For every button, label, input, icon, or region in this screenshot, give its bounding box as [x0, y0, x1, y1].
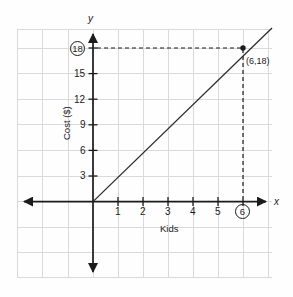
circled-x-value-annotation: 6 — [235, 204, 250, 219]
chart-canvas: 1 2 3 4 5 6 15 12 9 6 3 18 y x Cost ($) … — [0, 0, 293, 297]
x-tick-label-4: 4 — [190, 207, 196, 217]
grid-lines — [17, 29, 272, 278]
y-axis-title: Cost ($) — [62, 106, 72, 140]
x-tick-label-5: 5 — [215, 207, 221, 217]
x-tick-label-1: 1 — [115, 207, 121, 217]
y-axis-letter: y — [88, 14, 93, 24]
coordinate-plane-graph — [0, 0, 293, 297]
y-tick-label-6: 6 — [80, 146, 86, 156]
x-axis-title: Kids — [160, 224, 178, 234]
y-tick-label-9: 9 — [80, 120, 86, 130]
data-point-label: (6,18) — [246, 56, 270, 66]
y-tick-label-12: 12 — [74, 95, 85, 105]
y-tick-label-15: 15 — [74, 69, 85, 79]
x-tick-label-2: 2 — [140, 207, 146, 217]
circled-y-value-annotation: 18 — [70, 41, 85, 56]
data-point-marker — [240, 45, 245, 50]
x-axis-letter: x — [274, 197, 279, 207]
y-tick-label-3: 3 — [80, 171, 86, 181]
x-tick-label-3: 3 — [165, 207, 171, 217]
